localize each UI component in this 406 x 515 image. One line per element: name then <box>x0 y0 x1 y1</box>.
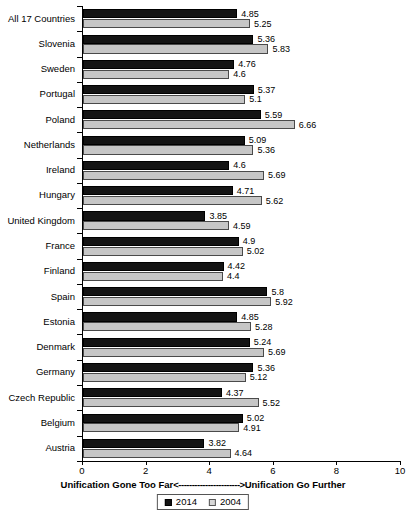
chart-row: Finland4.424.4 <box>0 259 406 284</box>
bar-value-label: 5.36 <box>253 35 275 44</box>
bar-rect <box>83 9 237 18</box>
bar-rect <box>83 186 233 195</box>
chart-row: Slovenia5.365.83 <box>0 31 406 56</box>
bar-rect <box>83 145 253 154</box>
chart-legend: 2014 2004 <box>157 494 249 510</box>
category-label: Belgium <box>41 418 75 428</box>
bar-rect <box>83 221 229 230</box>
bar-rect <box>83 262 224 271</box>
bar-group: 4.855.28 <box>83 309 406 334</box>
bar-value-label: 3.82 <box>204 439 226 448</box>
bar-rect <box>83 70 229 79</box>
x-axis-tick-label: 6 <box>270 466 275 476</box>
bar-rect <box>83 388 222 397</box>
y-axis-tick <box>77 132 82 133</box>
category-label: Czech Republic <box>8 393 75 403</box>
category-label: United Kingdom <box>7 216 75 226</box>
bar-value-label: 5.02 <box>243 414 265 423</box>
bar-value-label: 4.71 <box>233 186 255 195</box>
bar-group: 4.424.4 <box>83 259 406 284</box>
bar-value-label: 5.69 <box>264 348 286 357</box>
x-axis-tick-label: 4 <box>207 466 212 476</box>
category-label: Germany <box>36 367 75 377</box>
category-label: Portugal <box>40 89 75 99</box>
chart-row: Belgium5.024.91 <box>0 410 406 435</box>
bar-value-label: 5.36 <box>253 363 275 372</box>
category-label: Austria <box>45 443 75 453</box>
bar-group: 5.85.92 <box>83 284 406 309</box>
bar-group: 5.095.36 <box>83 132 406 157</box>
bar-value-label: 5.02 <box>243 247 265 256</box>
category-label: Spain <box>51 292 75 302</box>
category-label: All 17 Countries <box>8 14 75 24</box>
bar-rect <box>83 19 250 28</box>
chart-row: France4.95.02 <box>0 233 406 258</box>
y-axis-tick <box>77 360 82 361</box>
y-axis-tick <box>77 6 82 7</box>
category-label: Netherlands <box>24 140 75 150</box>
chart-row: Czech Republic4.375.52 <box>0 385 406 410</box>
chart-row: Poland5.596.66 <box>0 107 406 132</box>
y-axis-tick <box>77 309 82 310</box>
bar-value-label: 5.69 <box>264 171 286 180</box>
bar-rect <box>83 348 264 357</box>
y-axis-tick <box>77 436 82 437</box>
chart-row: United Kingdom3.854.59 <box>0 208 406 233</box>
bar-rect <box>83 322 251 331</box>
bar-rect <box>83 312 237 321</box>
bar-value-label: 5.37 <box>254 85 276 94</box>
bar-value-label: 5.62 <box>262 196 284 205</box>
bar-rect <box>83 272 223 281</box>
chart-row: Estonia4.855.28 <box>0 309 406 334</box>
bar-value-label: 4.6 <box>229 70 246 79</box>
chart-row: Germany5.365.12 <box>0 360 406 385</box>
legend-swatch-2004-icon <box>209 499 216 506</box>
y-axis-tick <box>77 107 82 108</box>
category-label: France <box>45 241 75 251</box>
y-axis-tick <box>77 284 82 285</box>
y-axis-tick <box>77 57 82 58</box>
bar-group: 4.95.02 <box>83 233 406 258</box>
bar-rect <box>83 161 229 170</box>
bar-group: 4.855.25 <box>83 6 406 31</box>
chart-row: All 17 Countries4.855.25 <box>0 6 406 31</box>
bar-value-label: 5.83 <box>268 44 290 53</box>
bar-rect <box>83 363 253 372</box>
bar-rect <box>83 414 243 423</box>
bar-group: 3.824.64 <box>83 436 406 461</box>
chart-rows: All 17 Countries4.855.25Slovenia5.365.83… <box>0 6 406 461</box>
category-label: Estonia <box>43 317 75 327</box>
chart-row: Denmark5.245.69 <box>0 334 406 359</box>
bar-rect <box>83 171 264 180</box>
bar-value-label: 5.28 <box>251 322 273 331</box>
bar-rect <box>83 373 246 382</box>
y-axis-tick <box>77 334 82 335</box>
bar-rect <box>83 60 234 69</box>
bar-value-label: 4.76 <box>234 60 256 69</box>
bar-value-label: 5.52 <box>259 398 281 407</box>
y-axis-tick <box>77 31 82 32</box>
x-axis-tick-label: 8 <box>334 466 339 476</box>
legend-swatch-2014-icon <box>165 499 172 506</box>
y-axis-tick <box>77 158 82 159</box>
category-label: Sweden <box>41 64 75 74</box>
caption-arrow: <-----------------------> <box>173 479 244 490</box>
chart-row: Sweden4.764.6 <box>0 57 406 82</box>
bar-rect <box>83 44 268 53</box>
legend-label-2004: 2004 <box>220 497 241 507</box>
bar-chart: All 17 Countries4.855.25Slovenia5.365.83… <box>0 0 406 515</box>
bar-group: 5.024.91 <box>83 410 406 435</box>
bar-value-label: 5.59 <box>261 110 283 119</box>
bar-value-label: 5.25 <box>250 19 272 28</box>
y-axis-tick <box>77 385 82 386</box>
category-label: Poland <box>45 115 75 125</box>
y-axis-tick <box>77 183 82 184</box>
bar-group: 4.65.69 <box>83 158 406 183</box>
legend-item-2014: 2014 <box>165 497 197 507</box>
category-label: Denmark <box>36 342 75 352</box>
legend-item-2004: 2004 <box>209 497 241 507</box>
bar-value-label: 4.91 <box>239 423 261 432</box>
y-axis-tick <box>77 82 82 83</box>
bar-rect <box>83 338 250 347</box>
x-axis-caption: Unification Gone Too Far<---------------… <box>0 479 406 490</box>
